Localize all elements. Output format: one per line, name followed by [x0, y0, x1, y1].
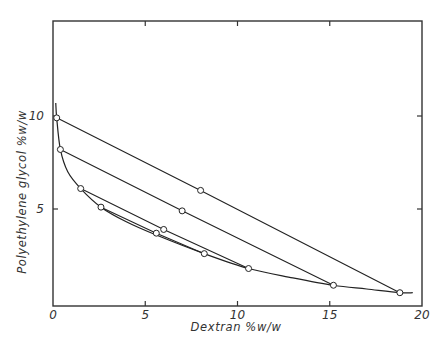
x-axis-label: Dextran %w/w: [191, 320, 282, 334]
data-point-marker: [330, 282, 336, 288]
data-point-marker: [78, 186, 84, 192]
data-point-marker: [98, 204, 104, 210]
data-point-marker: [153, 230, 159, 236]
binodal-curve: [56, 103, 413, 293]
phase-diagram-chart: 05101520510 Dextran %w/w Polyethylene gl…: [0, 0, 445, 351]
x-tick-label: 0: [49, 308, 57, 322]
y-axis-label: Polyethylene glycol %w/w: [15, 110, 29, 273]
data-point-marker: [161, 226, 167, 232]
data-markers: [54, 115, 403, 296]
y-tick-label: 5: [36, 202, 44, 216]
tie-line: [57, 118, 400, 293]
y-tick-label: 10: [29, 109, 45, 123]
data-point-marker: [201, 251, 207, 257]
data-point-marker: [54, 115, 60, 121]
x-tick-label: 20: [414, 308, 430, 322]
axis-tick-labels: 05101520510: [29, 109, 430, 322]
data-series: [56, 103, 413, 293]
data-point-marker: [246, 266, 252, 272]
data-point-marker: [397, 290, 403, 296]
data-point-marker: [179, 208, 185, 214]
x-tick-label: 5: [141, 308, 149, 322]
x-tick-label: 15: [322, 308, 337, 322]
data-point-marker: [57, 146, 63, 152]
tie-line: [60, 149, 333, 285]
data-point-marker: [198, 187, 204, 193]
